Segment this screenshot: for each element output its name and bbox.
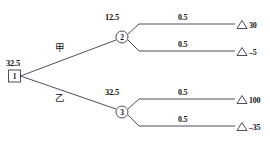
edge-node2-up-stub (128, 24, 139, 34)
terminal-triangle-icon-4 (237, 123, 247, 131)
edge-root-to-node3 (21, 76, 117, 109)
branch-label-yi: 乙 (55, 93, 65, 103)
tree-edges-canvas (0, 0, 270, 143)
edge-root-to-node2 (21, 40, 117, 76)
terminal-triangle-icon-1 (237, 21, 247, 29)
probability-node2-outcome-2: 0.5 (178, 41, 187, 49)
chance-node-2-label: 2 (116, 34, 128, 42)
node3-value: 32.5 (105, 88, 119, 97)
probability-node2-outcome-1: 0.5 (178, 14, 187, 22)
branch-label-jia: 甲 (55, 43, 65, 53)
probability-node3-outcome-1: 0.5 (178, 89, 187, 97)
payoff-node3-outcome-1: 100 (249, 97, 260, 105)
edge-node2-down-stub (128, 40, 139, 51)
chance-node-3-label: 3 (116, 109, 128, 117)
probability-node3-outcome-2: 0.5 (178, 116, 187, 124)
decision-tree-diagram: 32.5 1 甲 乙 12.5 2 32.5 3 0.5 0.5 0.5 0.5… (0, 0, 270, 143)
payoff-node2-outcome-2: –5 (249, 49, 257, 57)
root-node-value: 32.5 (6, 59, 20, 68)
decision-node-1-label: 1 (9, 73, 21, 81)
payoff-node2-outcome-1: 30 (249, 22, 257, 30)
node2-value: 12.5 (105, 13, 119, 22)
edge-node3-up-stub (128, 99, 139, 109)
terminal-triangle-icon-2 (237, 48, 247, 56)
terminal-triangle-icon-3 (237, 96, 247, 104)
edge-node3-down-stub (128, 115, 139, 126)
payoff-node3-outcome-2: –35 (249, 124, 260, 132)
